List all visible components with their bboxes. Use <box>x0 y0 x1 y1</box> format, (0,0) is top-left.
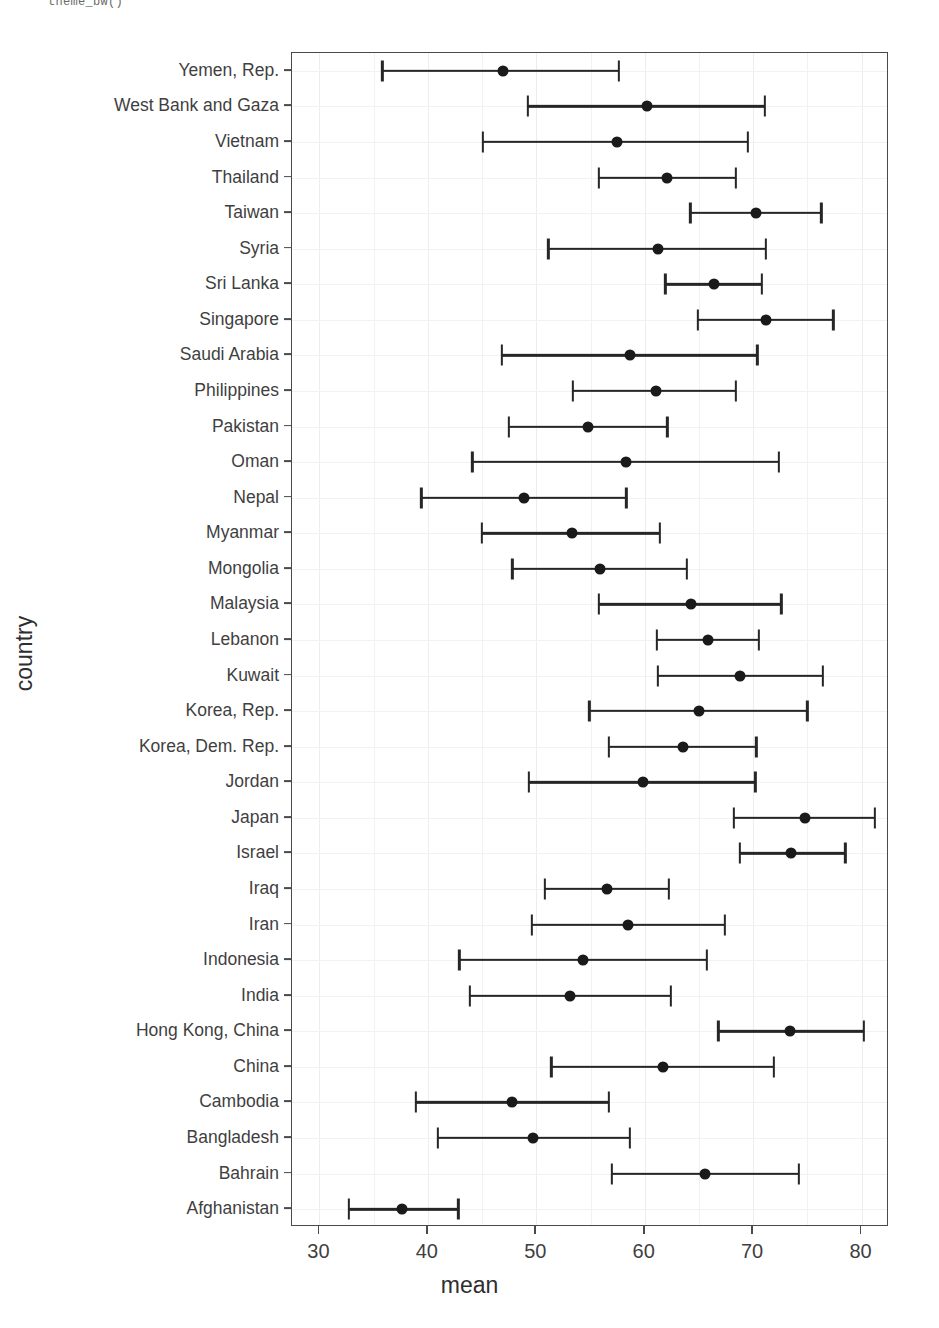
error-bar-cap-low <box>500 345 502 366</box>
error-bar-cap-high <box>806 701 808 722</box>
y-tick-label: Saudi Arabia <box>180 344 279 365</box>
error-bar-cap-low <box>739 843 741 864</box>
data-point[interactable] <box>528 1133 539 1144</box>
error-bar-cap-low <box>482 131 484 152</box>
gridline-horizontal <box>292 284 887 285</box>
data-point[interactable] <box>658 1061 669 1072</box>
error-bar-cap-high <box>778 452 780 473</box>
data-point[interactable] <box>564 990 575 1001</box>
error-bar-cap-low <box>511 558 513 579</box>
x-tick-mark <box>860 1226 862 1234</box>
error-bar-cap-low <box>469 985 471 1006</box>
x-tick-mark <box>643 1226 645 1234</box>
data-point[interactable] <box>621 457 632 468</box>
y-tick-mark <box>284 1207 291 1209</box>
data-point[interactable] <box>519 492 530 503</box>
data-point[interactable] <box>652 243 663 254</box>
y-tick-label: Nepal <box>233 486 279 507</box>
error-bar-cap-low <box>550 1056 552 1077</box>
error-bar-cap-low <box>420 487 422 508</box>
y-tick-mark <box>284 816 291 818</box>
error-bar-cap-low <box>572 380 574 401</box>
data-point[interactable] <box>601 884 612 895</box>
data-point[interactable] <box>751 208 762 219</box>
data-point[interactable] <box>611 136 622 147</box>
error-bar-cap-low <box>689 203 691 224</box>
y-tick-label: Yemen, Rep. <box>178 59 279 80</box>
y-tick-mark <box>284 176 291 178</box>
y-tick-mark <box>284 460 291 462</box>
y-tick-label: China <box>233 1055 279 1076</box>
data-point[interactable] <box>637 777 648 788</box>
error-bar-cap-high <box>798 1163 800 1184</box>
data-point[interactable] <box>507 1097 518 1108</box>
x-tick-mark <box>534 1226 536 1234</box>
error-bar-cap-high <box>756 345 758 366</box>
data-point[interactable] <box>497 65 508 76</box>
data-point[interactable] <box>693 706 704 717</box>
y-tick-mark <box>284 1065 291 1067</box>
data-point[interactable] <box>595 563 606 574</box>
data-point[interactable] <box>650 385 661 396</box>
y-tick-label: Korea, Dem. Rep. <box>139 735 279 756</box>
data-point[interactable] <box>800 812 811 823</box>
error-bar-cap-low <box>547 238 549 259</box>
y-tick-label: Israel <box>236 842 279 863</box>
y-tick-mark <box>284 353 291 355</box>
y-tick-label: Pakistan <box>212 415 279 436</box>
y-tick-mark <box>284 745 291 747</box>
error-bar-cap-high <box>625 487 627 508</box>
error-bar-cap-low <box>531 914 533 935</box>
data-point[interactable] <box>702 635 713 646</box>
data-point[interactable] <box>784 1026 795 1037</box>
error-bar-cap-high <box>705 950 707 971</box>
x-tick-label: 60 <box>633 1240 655 1263</box>
data-point[interactable] <box>624 350 635 361</box>
y-tick-label: India <box>241 984 279 1005</box>
data-point[interactable] <box>641 101 652 112</box>
gridline-vertical <box>536 53 537 1225</box>
data-point[interactable] <box>567 528 578 539</box>
y-tick-mark <box>284 994 291 996</box>
x-tick-mark <box>426 1226 428 1234</box>
y-tick-label: Lebanon <box>211 629 279 650</box>
y-tick-label: Syria <box>239 237 279 258</box>
y-tick-mark <box>284 567 291 569</box>
data-point[interactable] <box>709 279 720 290</box>
y-tick-mark <box>284 638 291 640</box>
data-point[interactable] <box>686 599 697 610</box>
y-tick-label: Cambodia <box>199 1091 279 1112</box>
y-tick-label: Bahrain <box>219 1162 279 1183</box>
y-tick-mark <box>284 140 291 142</box>
gridline-vertical-minor <box>482 53 483 1225</box>
y-tick-label: Thailand <box>212 166 279 187</box>
error-bar-cap-high <box>659 523 661 544</box>
y-tick-label: Jordan <box>225 771 279 792</box>
error-bar-cap-high <box>832 309 834 330</box>
data-point[interactable] <box>577 955 588 966</box>
error-bar-cap-high <box>735 380 737 401</box>
error-bar-cap-low <box>348 1199 350 1220</box>
x-tick-label: 80 <box>849 1240 871 1263</box>
gridline-horizontal <box>292 747 887 748</box>
data-point[interactable] <box>761 314 772 325</box>
y-tick-mark <box>284 211 291 213</box>
error-bar-cap-low <box>598 594 600 615</box>
data-point[interactable] <box>662 172 673 183</box>
y-tick-label: West Bank and Gaza <box>114 95 279 116</box>
data-point[interactable] <box>396 1204 407 1215</box>
data-point[interactable] <box>677 741 688 752</box>
data-point[interactable] <box>623 919 634 930</box>
data-point[interactable] <box>700 1168 711 1179</box>
error-bar-cap-low <box>598 167 600 188</box>
y-tick-label: Afghanistan <box>187 1198 279 1219</box>
y-tick-mark <box>284 1029 291 1031</box>
error-bar-cap-high <box>724 914 726 935</box>
error-bar-cap-high <box>780 594 782 615</box>
data-point[interactable] <box>735 670 746 681</box>
y-tick-mark <box>284 958 291 960</box>
data-point[interactable] <box>786 848 797 859</box>
error-bar-cap-low <box>481 523 483 544</box>
data-point[interactable] <box>583 421 594 432</box>
y-tick-mark <box>284 282 291 284</box>
